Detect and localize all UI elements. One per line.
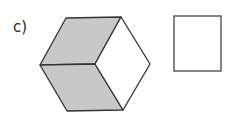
hexagon-cube bbox=[40, 17, 150, 111]
diagram bbox=[0, 0, 233, 114]
answer-box[interactable] bbox=[174, 16, 221, 71]
